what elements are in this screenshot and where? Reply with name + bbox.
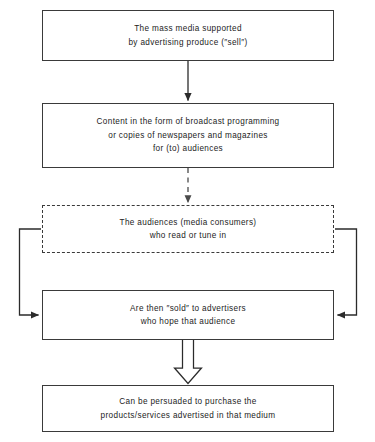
node-persuaded-line-1: Can be persuaded to purchase the: [119, 395, 256, 409]
node-audiences: The audiences (media consumers) who read…: [42, 205, 334, 253]
node-content: Content in the form of broadcast program…: [42, 103, 334, 168]
node-mass-media-line-2: by advertising produce (″sell″): [128, 36, 247, 50]
node-persuaded-to-purchase: Can be persuaded to purchase the product…: [42, 385, 334, 432]
node-audiences-line-2: who read or tune in: [150, 229, 227, 243]
node-content-line-2: or copies of newspapers and magazines: [108, 129, 268, 143]
node-sold-line-1: Are then ″sold″ to advertisers: [130, 302, 246, 316]
node-audiences-line-1: The audiences (media consumers): [120, 216, 257, 230]
node-mass-media-line-1: The mass media supported: [134, 22, 242, 36]
arrow-sold-to-persuaded-hollow: [175, 340, 202, 384]
node-sold-to-advertisers: Are then ″sold″ to advertisers who hope …: [42, 290, 334, 340]
flowchart-diagram: The mass media supported by advertising …: [0, 0, 375, 442]
arrow-audiences-right-to-sold: [335, 229, 357, 315]
node-persuaded-line-2: products/services advertised in that med…: [101, 409, 276, 423]
node-mass-media: The mass media supported by advertising …: [42, 10, 334, 61]
node-sold-line-2: who hope that audience: [141, 315, 236, 329]
node-content-line-1: Content in the form of broadcast program…: [97, 115, 280, 129]
node-content-line-3: for (to) audiences: [153, 142, 223, 156]
arrow-audiences-left-to-sold: [20, 229, 42, 315]
